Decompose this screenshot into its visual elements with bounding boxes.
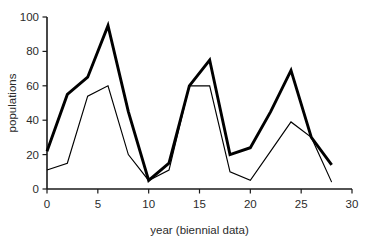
- x-axis-group: 051015202530: [44, 189, 359, 210]
- series-line-thin-line: [47, 86, 332, 182]
- x-tick-label: 5: [95, 198, 101, 210]
- y-tick-label: 60: [26, 80, 39, 92]
- data-series-layer: [47, 26, 332, 183]
- x-tick-label: 15: [193, 198, 206, 210]
- y-tick-label: 100: [20, 11, 39, 23]
- y-axis-tick-labels: 020406080100: [20, 11, 39, 195]
- series-line-thick-line: [47, 26, 332, 181]
- x-tick-label: 0: [44, 198, 50, 210]
- x-axis-title: year (biennial data): [150, 224, 249, 236]
- y-tick-label: 20: [26, 149, 39, 161]
- x-tick-label: 30: [346, 198, 359, 210]
- x-axis-tick-labels: 051015202530: [44, 198, 359, 210]
- line-chart-plot: 020406080100 051015202530 year (biennial…: [0, 0, 392, 247]
- y-tick-label: 40: [26, 114, 39, 126]
- x-tick-label: 20: [244, 198, 257, 210]
- y-tick-label: 0: [33, 183, 39, 195]
- chart-figure: 020406080100 051015202530 year (biennial…: [0, 0, 392, 247]
- x-tick-label: 10: [142, 198, 155, 210]
- y-tick-label: 80: [26, 45, 39, 57]
- y-axis-group: 020406080100: [20, 11, 47, 195]
- x-tick-label: 25: [295, 198, 308, 210]
- y-axis-title: populations: [6, 73, 18, 132]
